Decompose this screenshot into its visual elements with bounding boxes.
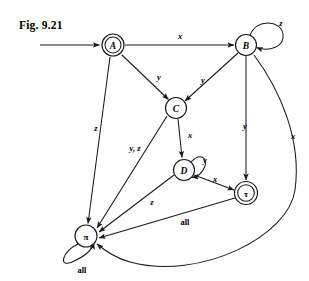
edge-label-D-self: y bbox=[202, 155, 207, 165]
edge-label-B-C: y bbox=[200, 75, 205, 85]
edge-D-to-pi bbox=[99, 175, 174, 232]
edge-label-B-tau: y bbox=[242, 121, 247, 131]
edge-C-to-pi bbox=[97, 116, 167, 228]
state-B-label: B bbox=[242, 41, 249, 51]
edge-label-D-tau: x bbox=[212, 174, 218, 184]
state-node-tau[interactable]: τ bbox=[235, 182, 258, 205]
edge-label-A-pi: z bbox=[93, 123, 98, 133]
edge-C-to-D bbox=[178, 119, 182, 158]
edge-label-C-D: x bbox=[187, 130, 193, 140]
edge-B-to-pi bbox=[97, 55, 296, 266]
edge-tau-to-pi bbox=[99, 198, 235, 238]
edge-label-pi-self: all bbox=[78, 265, 88, 275]
state-transition-diagram: A B C D τ π x z y y bbox=[0, 0, 309, 281]
edge-label-tau-pi: all bbox=[181, 217, 191, 227]
state-node-B[interactable]: B bbox=[236, 35, 257, 56]
edge-label-B-pi: x bbox=[290, 131, 296, 141]
state-node-A[interactable]: A bbox=[102, 34, 124, 56]
edge-A-to-C bbox=[122, 55, 169, 100]
state-node-C[interactable]: C bbox=[166, 98, 187, 119]
edge-label-D-pi: z bbox=[149, 197, 154, 207]
state-node-D[interactable]: D bbox=[174, 160, 195, 181]
edge-A-to-pi bbox=[88, 57, 110, 224]
state-D-label: D bbox=[180, 166, 188, 176]
edge-label-C-pi: y, z bbox=[128, 143, 141, 153]
edge-B-to-C bbox=[185, 53, 238, 101]
edge-label-A-C: y bbox=[156, 72, 161, 82]
state-A-label: A bbox=[109, 41, 116, 51]
edge-label-A-B: x bbox=[177, 31, 183, 41]
state-pi-label: π bbox=[84, 232, 89, 242]
edge-label-B-self: z bbox=[278, 18, 283, 28]
figure-page: Fig. 9.21 bbox=[0, 0, 309, 281]
state-C-label: C bbox=[173, 104, 180, 114]
state-node-pi[interactable]: π bbox=[75, 225, 97, 247]
